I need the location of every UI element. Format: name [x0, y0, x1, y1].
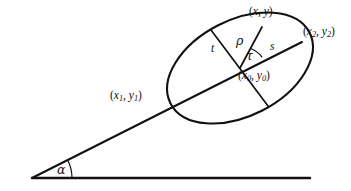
label-alpha: α [57, 164, 65, 177]
label-segment-s: s [270, 41, 274, 53]
paren-close: ) [331, 25, 335, 37]
alpha-angle-arc [68, 160, 72, 178]
label-rho: ρ [236, 35, 243, 48]
label-tau: τ [246, 50, 253, 63]
label-point-x0y0: (x0, y0) [238, 70, 270, 84]
diagram-vector-graphics [0, 0, 351, 191]
label-segment-t: t [211, 43, 214, 55]
label-point-x1y1: (x1, y1) [110, 90, 142, 104]
label-point-x2y2: (x2, y2) [303, 26, 335, 40]
diagram-canvas: ((x, y)x, y) (x2, y2) (x1, y1) (x0, y0) … [0, 0, 351, 191]
label-point-xy: ((x, y)x, y) [249, 6, 273, 18]
